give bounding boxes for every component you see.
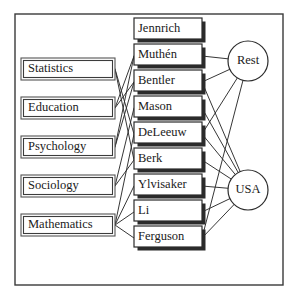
discipline-label: Sociology (28, 178, 79, 192)
discipline-node-psychology[interactable]: Psychology (21, 136, 115, 158)
discipline-node-mathematics[interactable]: Mathematics (21, 214, 115, 236)
person-node-mason[interactable]: Mason (134, 96, 206, 121)
person-label: Berk (138, 151, 163, 165)
discipline-label: Psychology (28, 139, 87, 153)
location-node-rest[interactable]: Rest (228, 41, 268, 81)
discipline-label: Mathematics (28, 217, 93, 231)
person-node-berk[interactable]: Berk (134, 148, 206, 173)
person-label: Muthén (138, 47, 178, 61)
location-label: Rest (237, 53, 260, 67)
person-label: Li (138, 203, 150, 217)
person-node-ylvisaker[interactable]: Ylvisaker (134, 174, 206, 199)
discipline-label: Statistics (28, 61, 73, 75)
discipline-node-education[interactable]: Education (21, 97, 115, 119)
location-label: USA (235, 182, 260, 196)
person-label: Bentler (138, 73, 176, 87)
person-node-ferguson[interactable]: Ferguson (134, 226, 206, 251)
tripartite-graph: StatisticsEducationPsychologySociologyMa… (0, 0, 296, 300)
discipline-node-sociology[interactable]: Sociology (21, 175, 115, 197)
discipline-node-statistics[interactable]: Statistics (21, 58, 115, 80)
person-node-muthen[interactable]: Muthén (134, 44, 206, 69)
person-label: Ferguson (138, 229, 185, 243)
person-node-group: JennrichMuthénBentlerMasonDeLeeuwBerkYlv… (134, 18, 206, 251)
person-label: Jennrich (138, 21, 181, 35)
diagram-canvas: StatisticsEducationPsychologySociologyMa… (0, 0, 296, 300)
person-label: DeLeeuw (138, 125, 187, 139)
person-label: Mason (138, 99, 173, 113)
person-node-li[interactable]: Li (134, 200, 206, 225)
person-label: Ylvisaker (138, 177, 187, 191)
person-node-deleeuw[interactable]: DeLeeuw (134, 122, 206, 147)
location-node-usa[interactable]: USA (228, 170, 268, 210)
person-node-bentler[interactable]: Bentler (134, 70, 206, 95)
discipline-label: Education (28, 100, 79, 114)
person-node-jennrich[interactable]: Jennrich (134, 18, 206, 43)
